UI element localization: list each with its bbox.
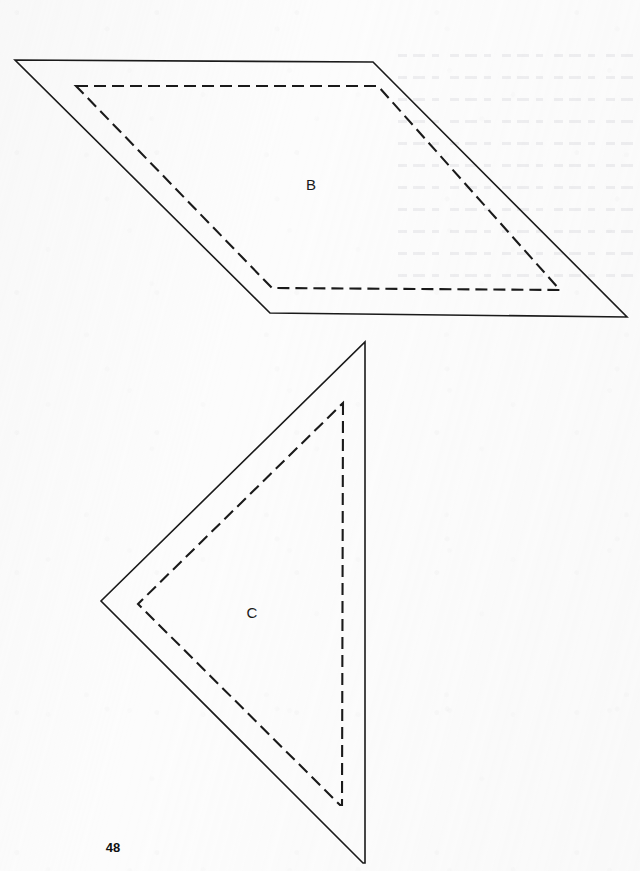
worksheet-page: B C 48 <box>0 0 640 871</box>
figure-b-dashed-parallelogram <box>76 86 560 290</box>
figure-b-label: B <box>306 177 316 192</box>
figure-c-label: C <box>247 605 258 620</box>
figure-b-solid-parallelogram <box>15 60 627 317</box>
geometry-figures <box>0 0 640 871</box>
page-number: 48 <box>106 841 120 854</box>
